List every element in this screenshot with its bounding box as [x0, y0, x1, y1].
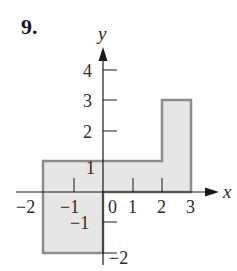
- y-axis-label: y: [96, 23, 107, 44]
- x-axis-arrow-icon: [205, 188, 219, 197]
- x-tick-label: 1: [128, 197, 137, 217]
- y-tick-label: 3: [83, 91, 92, 111]
- x-tick-label: 3: [186, 197, 195, 217]
- coordinate-plane: x y −2 −1 0 1 2 3 4 3 2 1 −1 −2: [0, 0, 237, 271]
- y-tick-label: 4: [83, 61, 92, 81]
- x-tick-label: −2: [16, 197, 35, 217]
- shaded-region: [43, 100, 191, 253]
- y-axis-arrow-icon: [99, 47, 108, 61]
- x-tick-label: 0: [108, 197, 117, 217]
- figure: 9. x y −2 −1 0 1 2 3: [0, 0, 237, 271]
- y-tick-label: −2: [109, 248, 128, 268]
- y-tick-label: −1: [70, 213, 89, 233]
- y-tick-label: 2: [83, 122, 92, 142]
- x-axis-label: x: [222, 181, 232, 202]
- problem-number: 9.: [21, 14, 38, 40]
- y-tick-label: 1: [86, 158, 95, 178]
- x-tick-label: 2: [157, 197, 166, 217]
